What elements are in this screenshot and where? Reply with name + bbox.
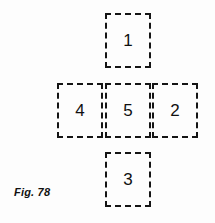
- figure-cell-label: 1: [123, 32, 132, 49]
- figure-cell-center: 5: [105, 83, 151, 138]
- figure-container: 1 4 5 2 3 Fig. 78: [0, 0, 215, 223]
- figure-cell-right: 2: [152, 83, 198, 138]
- figure-cell-label: 5: [123, 102, 132, 119]
- figure-cell-label: 2: [170, 102, 179, 119]
- figure-cell-bottom: 3: [105, 152, 151, 207]
- figure-cell-label: 4: [75, 102, 84, 119]
- figure-cell-left: 4: [57, 83, 103, 138]
- figure-cell-label: 3: [123, 171, 132, 188]
- figure-cell-top: 1: [105, 13, 151, 68]
- figure-caption: Fig. 78: [14, 186, 50, 198]
